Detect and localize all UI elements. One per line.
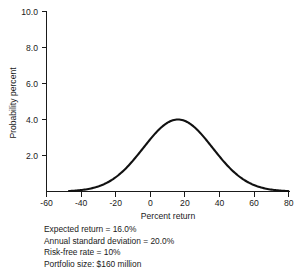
x-tick-label-80: 80	[284, 198, 294, 208]
x-tick-label-neg40: -40	[75, 198, 88, 208]
normal-distribution-curve	[69, 120, 288, 192]
x-tick-label-neg20: -20	[109, 198, 122, 208]
x-axis-title: Percent return	[141, 211, 196, 221]
assumptions-note-block: Expected return = 16.0% Annual standard …	[44, 224, 294, 270]
note-risk-free-rate: Risk-free rate = 10%	[44, 247, 294, 259]
x-tick-label-20: 20	[180, 198, 190, 208]
y-tick-label-10: 10.0	[21, 7, 38, 17]
x-tick-label-60: 60	[249, 198, 259, 208]
note-standard-deviation: Annual standard deviation = 20.0%	[44, 236, 294, 248]
chart-figure: 10.0 8.0 6.0 4.0 2.0 -60 -40 -20 0 20 40…	[0, 0, 306, 280]
x-tick-label-0: 0	[148, 198, 153, 208]
y-tick-label-6: 6.0	[26, 79, 38, 89]
note-expected-return: Expected return = 16.0%	[44, 224, 294, 236]
x-tick-label-neg60: -60	[40, 198, 53, 208]
y-tick-label-8: 8.0	[26, 43, 38, 53]
y-axis-title: Probability percent	[8, 67, 18, 139]
x-tick-label-40: 40	[215, 198, 225, 208]
note-portfolio-size: Portfolio size: $160 million	[44, 259, 294, 271]
y-tick-label-4: 4.0	[26, 115, 38, 125]
y-tick-label-2: 2.0	[26, 151, 38, 161]
